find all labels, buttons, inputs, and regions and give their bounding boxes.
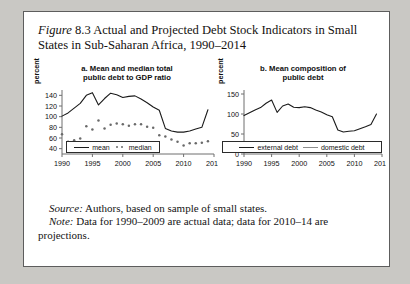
svg-text:60: 60	[49, 134, 57, 143]
legend-label-mean: mean	[92, 144, 110, 151]
note-source: Source: Authors, based on sample of smal…	[38, 202, 368, 215]
svg-text:80: 80	[49, 123, 57, 132]
line-swatch-icon	[239, 147, 254, 148]
panel-b-svg: 050100150199019952000200520102015	[220, 86, 386, 170]
svg-text:1990: 1990	[54, 159, 70, 168]
panel-b-subtitle-line1: b. Mean composition of	[220, 64, 386, 73]
svg-text:2000: 2000	[291, 159, 307, 168]
panel-b-ylabel: percent	[216, 58, 225, 84]
panel-a-subtitle-line1: a. Mean and median total	[36, 64, 218, 73]
svg-text:2005: 2005	[145, 159, 161, 168]
note-note-lead: Note:	[49, 215, 73, 227]
svg-text:1995: 1995	[84, 159, 100, 168]
note-source-lead: Source:	[49, 202, 83, 214]
legend-label-domestic-debt: domestic debt	[321, 144, 365, 151]
panel-a-ylabel: percent	[32, 58, 41, 84]
figure-number: 8.3	[75, 23, 91, 37]
legend-item-mean: mean	[74, 144, 110, 151]
svg-text:1995: 1995	[264, 159, 280, 168]
dots-swatch-icon	[115, 145, 126, 149]
svg-text:100: 100	[227, 110, 239, 119]
svg-text:2015: 2015	[374, 159, 386, 168]
panel-a-subtitle-line2: public debt to GDP ratio	[36, 73, 218, 82]
legend-label-median: median	[129, 144, 152, 151]
svg-text:2010: 2010	[176, 159, 192, 168]
panel-b-legend: external debt domestic debt	[222, 141, 382, 153]
panel-a-svg: 406080100120140199019952000200520102015	[36, 86, 218, 170]
chart-panel-b: b. Mean composition of public debt 05010…	[220, 64, 386, 200]
panel-b-subtitle-line2: public debt	[220, 73, 386, 82]
svg-text:120: 120	[45, 102, 57, 111]
svg-text:2005: 2005	[319, 159, 335, 168]
svg-text:150: 150	[227, 90, 239, 99]
figure-notes: Source: Authors, based on sample of smal…	[38, 202, 368, 242]
legend-label-external-debt: external debt	[257, 144, 297, 151]
note-note-text: Data for 1990–2009 are actual data; data…	[38, 215, 328, 240]
legend-item-domestic-debt: domestic debt	[303, 144, 365, 151]
svg-text:50: 50	[231, 130, 239, 139]
line-swatch-icon	[303, 147, 318, 148]
panel-a-legend: mean median	[66, 141, 160, 153]
svg-text:140: 140	[45, 91, 57, 100]
panel-a-plot: 406080100120140199019952000200520102015	[36, 86, 218, 170]
panel-b-plot: 050100150199019952000200520102015	[220, 86, 386, 170]
svg-text:2010: 2010	[346, 159, 362, 168]
panel-b-subtitle: b. Mean composition of public debt	[220, 64, 386, 83]
svg-text:2015: 2015	[206, 159, 218, 168]
legend-item-external-debt: external debt	[239, 144, 297, 151]
svg-text:2000: 2000	[115, 159, 131, 168]
legend-item-median: median	[115, 144, 152, 151]
svg-text:40: 40	[49, 144, 57, 153]
line-swatch-icon	[74, 147, 89, 148]
chart-panel-a: a. Mean and median total public debt to …	[36, 64, 218, 200]
panel-a-subtitle: a. Mean and median total public debt to …	[36, 64, 218, 83]
note-note: Note: Data for 1990–2009 are actual data…	[38, 215, 368, 242]
svg-text:100: 100	[45, 112, 57, 121]
note-source-text: Authors, based on sample of small states…	[85, 202, 267, 214]
figure-label: Figure	[38, 23, 72, 37]
svg-text:1990: 1990	[236, 159, 252, 168]
figure-card: Figure 8.3 Actual and Projected Debt Sto…	[23, 11, 390, 267]
figure-title: Figure 8.3 Actual and Projected Debt Sto…	[38, 23, 368, 52]
